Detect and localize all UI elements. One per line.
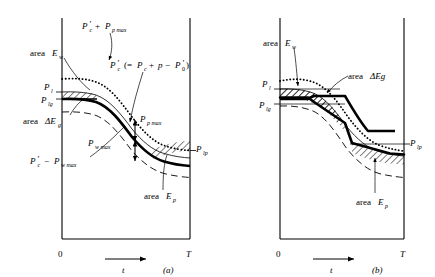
panel-b-label-area-delta-eg: area ΔEg <box>348 71 386 81</box>
svg-text:area: area <box>263 38 278 48</box>
panel-a-label-pw-max: P w max <box>87 138 111 150</box>
panel-a-label-area-delta-eg: area ΔE g <box>23 116 61 128</box>
svg-text:lp: lp <box>203 150 208 156</box>
svg-text:area: area <box>144 191 159 201</box>
svg-text:ΔEg: ΔEg <box>369 71 386 81</box>
panel-a-label-plp: P lp <box>195 144 208 156</box>
panel-a-label-pl: P l <box>43 82 53 94</box>
svg-text:E: E <box>165 191 172 201</box>
svg-text:P: P <box>43 82 50 92</box>
panel-a-tag: (a) <box>163 265 174 275</box>
panel-a-label-pc-prime-eq: P c ′ (= P c + p − P 0 ′ ) <box>109 58 189 72</box>
svg-text:l: l <box>51 88 53 94</box>
svg-text:P: P <box>139 114 146 124</box>
svg-text:area: area <box>30 48 45 58</box>
svg-text:w: w <box>292 44 296 50</box>
panel-b-xtick-T: T <box>400 249 406 259</box>
svg-text:w max: w max <box>61 162 77 168</box>
figure-container: P c ′ + P p max P c ′ (= P c + p − P 0 ′… <box>0 0 435 277</box>
svg-text:lp: lp <box>417 144 422 150</box>
panel-b-label-area-ep: area E p <box>356 197 388 209</box>
svg-text:lg: lg <box>266 106 271 112</box>
panel-a-leader-pwmax-formula <box>90 127 124 157</box>
panel-a-leader-ew <box>64 58 90 90</box>
svg-text:area: area <box>348 71 363 81</box>
svg-text:−: − <box>165 60 170 70</box>
panel-b: area E w area ΔEg area E p P l P lg P lp… <box>258 18 422 275</box>
svg-text:P: P <box>109 60 116 70</box>
svg-text:E: E <box>377 197 384 207</box>
svg-text:−: − <box>44 156 49 166</box>
panel-b-x-axis-name: t <box>330 265 333 275</box>
svg-text:p: p <box>157 60 163 70</box>
panel-a-xtick-zero: 0 <box>58 249 63 259</box>
panel-a-xtick-T: T <box>186 249 192 259</box>
svg-text:E: E <box>284 38 291 48</box>
panel-b-label-pl: P l <box>261 79 271 91</box>
svg-text:P: P <box>29 156 36 166</box>
svg-text:(=: (= <box>124 60 132 70</box>
panel-b-xtick-zero: 0 <box>276 249 281 259</box>
panel-b-label-plg: P lg <box>258 100 271 112</box>
svg-text:area: area <box>356 197 371 207</box>
svg-text:P: P <box>81 21 88 31</box>
svg-text:P: P <box>195 144 202 154</box>
panel-a: P c ′ + P p max P c ′ (= P c + p − P 0 ′… <box>23 18 208 275</box>
panel-b-leader-ew <box>294 48 298 86</box>
panel-b-curve-lower-dashed <box>280 106 404 178</box>
panel-a-label-area-ew: area E w <box>30 48 63 60</box>
svg-text:P: P <box>104 21 111 31</box>
panel-b-tag: (b) <box>372 265 383 275</box>
svg-text:lg: lg <box>48 101 53 107</box>
svg-text:P: P <box>53 156 60 166</box>
panel-a-leader-pc-plus <box>109 33 112 60</box>
svg-text:l: l <box>269 85 271 91</box>
panel-b-label-plp: P lp <box>409 138 422 150</box>
panel-a-label-pc-minus-pwmax: P c ′ − P w max <box>29 154 77 168</box>
panel-a-label-plg: P lg <box>40 95 53 107</box>
svg-text:w: w <box>59 54 63 60</box>
svg-text:P: P <box>174 60 181 70</box>
svg-text:P: P <box>409 138 416 148</box>
svg-text:p max: p max <box>111 27 127 33</box>
svg-text:P: P <box>40 95 47 105</box>
panel-b-leader-delta-eg <box>327 76 348 93</box>
svg-text:w max: w max <box>95 144 111 150</box>
svg-text:area: area <box>23 116 38 126</box>
panel-a-x-axis-name: t <box>122 265 125 275</box>
svg-text:g: g <box>58 122 61 128</box>
svg-text:P: P <box>136 60 143 70</box>
svg-text:P: P <box>261 79 268 89</box>
svg-text:p: p <box>384 203 388 209</box>
svg-text:c: c <box>144 66 147 72</box>
svg-text:P: P <box>258 100 265 110</box>
svg-text:E: E <box>51 48 58 58</box>
panel-a-label-area-ep: area E p <box>144 191 176 203</box>
panel-a-curve-pc-plus-ppmax <box>62 79 190 151</box>
svg-text:P: P <box>87 138 94 148</box>
svg-text:): ) <box>186 60 189 70</box>
panel-a-label-pp-max: P p max <box>139 114 162 126</box>
svg-text:p: p <box>172 197 176 203</box>
svg-text:+: + <box>149 60 154 70</box>
figure-svg: P c ′ + P p max P c ′ (= P c + p − P 0 ′… <box>0 0 435 277</box>
svg-text:p max: p max <box>146 120 162 126</box>
panel-a-label-pc-plus-ppmax: P c ′ + P p max <box>81 19 127 33</box>
svg-text:+: + <box>95 21 100 31</box>
svg-text:ΔE: ΔE <box>44 116 56 126</box>
